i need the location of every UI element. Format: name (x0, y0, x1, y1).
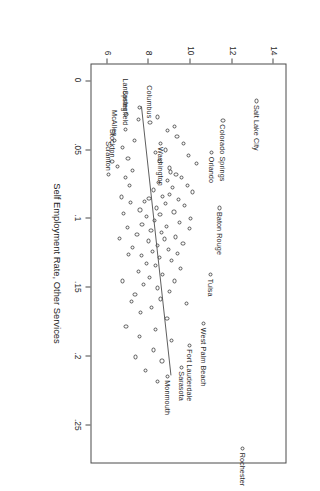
x-axis-tick-label: .1 (73, 214, 83, 221)
data-point (152, 347, 156, 351)
data-point (153, 263, 157, 267)
point-label: Monmouth (164, 380, 171, 415)
y-axis-tick (148, 58, 149, 63)
data-point (159, 230, 163, 234)
data-point (151, 187, 155, 191)
point-label: Rochester (239, 452, 246, 486)
data-point (208, 272, 212, 276)
x-axis-tick-label: .2 (73, 352, 83, 359)
plot-panel: Salt Lake CityColorado SpringsOrlandoWas… (91, 63, 282, 463)
data-point (185, 183, 189, 187)
data-point (162, 236, 166, 240)
point-label: Orlando (208, 156, 215, 182)
x-axis-tick (86, 80, 91, 81)
data-point (189, 216, 193, 220)
data-point (175, 134, 179, 138)
data-point (154, 205, 158, 209)
data-point (150, 249, 154, 253)
point-label: Scranton (105, 141, 112, 171)
y-axis-tick-label: 14 (269, 46, 279, 55)
x-axis-tick-label: .25 (73, 419, 83, 431)
data-point (168, 165, 172, 169)
data-point (173, 234, 177, 238)
data-point (135, 232, 139, 236)
data-point (143, 368, 147, 372)
point-label: Springfield (122, 90, 129, 125)
data-point (132, 138, 136, 142)
data-point (172, 209, 176, 213)
data-point (165, 316, 169, 320)
x-axis-tick-label: .15 (73, 281, 83, 293)
data-point (174, 172, 178, 176)
data-point (147, 275, 151, 279)
data-point (139, 253, 143, 257)
data-point (130, 299, 134, 303)
data-point (152, 218, 156, 222)
data-point (134, 354, 138, 358)
data-point (133, 292, 137, 296)
data-point (159, 296, 163, 300)
point-label: Salt Lake City (253, 105, 260, 151)
data-point (176, 197, 180, 201)
data-point (136, 269, 140, 273)
data-point (141, 282, 145, 286)
x-axis-title: Self Employment Rate, Other Services (52, 63, 63, 463)
data-point (187, 226, 191, 230)
data-point (181, 241, 185, 245)
data-point (160, 358, 164, 362)
data-point (149, 228, 153, 232)
y-axis-tick (231, 58, 232, 63)
data-point (124, 324, 128, 328)
data-point (169, 338, 173, 342)
rotated-figure-wrapper: Salt Lake CityColorado SpringsOrlandoWas… (20, 0, 282, 491)
data-point (221, 118, 225, 122)
data-point (123, 175, 127, 179)
point-label: Washington (157, 147, 164, 186)
data-point (184, 301, 188, 305)
data-point (120, 278, 124, 282)
y-axis-tick-label: 8 (144, 50, 154, 55)
point-label: Baton Rouge (216, 211, 223, 254)
data-point (166, 178, 170, 182)
data-point (123, 127, 127, 131)
y-axis-tick (190, 58, 191, 63)
data-point (164, 224, 168, 228)
data-point (172, 278, 176, 282)
x-axis-tick (86, 355, 91, 356)
data-point (218, 205, 222, 209)
data-point (201, 321, 205, 325)
data-point (137, 105, 141, 109)
data-point (116, 164, 120, 168)
data-point (172, 124, 176, 128)
x-axis-tick (86, 149, 91, 150)
data-point (158, 212, 162, 216)
data-point (179, 175, 183, 179)
data-point (177, 220, 181, 224)
data-point (181, 141, 185, 145)
x-axis-tick-label: .05 (73, 143, 83, 155)
point-label: Fort Lauderdale (186, 349, 193, 401)
point-label: Colorado Springs (219, 124, 226, 181)
data-point (138, 207, 142, 211)
data-point (137, 334, 141, 338)
x-axis-tick (86, 424, 91, 425)
scatter-plot-figure: Salt Lake CityColorado SpringsOrlandoWas… (20, 0, 282, 491)
data-point (148, 120, 152, 124)
data-point (166, 247, 170, 251)
y-axis-tick-label: 12 (227, 46, 237, 55)
data-point (254, 98, 258, 102)
point-label: West Palm Beach (200, 327, 207, 386)
data-point (144, 261, 148, 265)
data-point (175, 251, 179, 255)
point-label: Tulsa (207, 278, 214, 296)
data-point (157, 255, 161, 259)
x-axis-tick (86, 217, 91, 218)
point-label: Sarasota (178, 371, 185, 401)
y-axis-tick (273, 58, 274, 63)
data-point (136, 117, 140, 121)
data-point (126, 156, 130, 160)
data-point (155, 114, 159, 118)
data-point (147, 196, 151, 200)
data-point (130, 168, 134, 172)
data-point (155, 243, 159, 247)
